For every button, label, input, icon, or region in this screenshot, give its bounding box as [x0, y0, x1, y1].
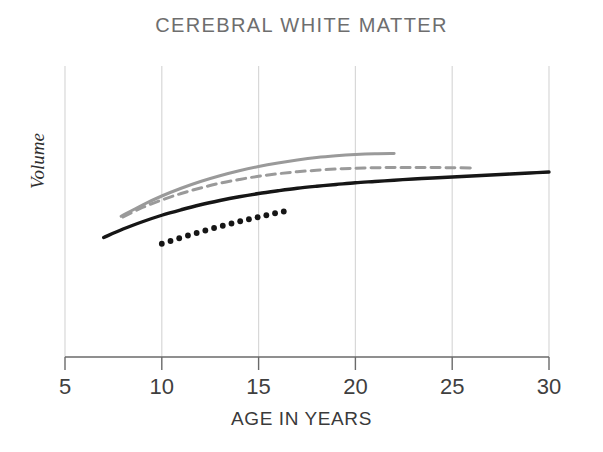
series-black-dotted: [159, 209, 287, 247]
x-tick-label: 20: [332, 374, 378, 400]
chart-canvas: [0, 0, 603, 452]
gridlines: [65, 66, 549, 357]
x-tick-label: 30: [526, 374, 572, 400]
data-point: [194, 230, 200, 236]
data-point: [159, 241, 165, 247]
series-black-solid: [104, 172, 549, 238]
x-tick-label: 25: [429, 374, 475, 400]
data-point: [211, 225, 217, 231]
data-point: [185, 233, 191, 239]
data-point: [220, 223, 226, 229]
series-gray-dashed: [123, 167, 471, 217]
x-tick-label: 15: [236, 374, 282, 400]
data-point: [263, 212, 269, 218]
data-point: [168, 238, 174, 244]
data-point: [237, 218, 243, 224]
data-point: [176, 235, 182, 241]
data-point: [229, 221, 235, 227]
plot-series-group: [104, 154, 549, 247]
chart-figure: CEREBRAL WHITE MATTER Volume AGE IN YEAR…: [0, 0, 603, 452]
data-point: [272, 210, 278, 216]
x-tick-label: 5: [42, 374, 88, 400]
data-point: [246, 216, 252, 222]
data-point: [202, 228, 208, 234]
data-point: [281, 209, 287, 215]
x-tick-label: 10: [139, 374, 185, 400]
data-point: [255, 214, 261, 220]
x-axis: [65, 357, 549, 370]
